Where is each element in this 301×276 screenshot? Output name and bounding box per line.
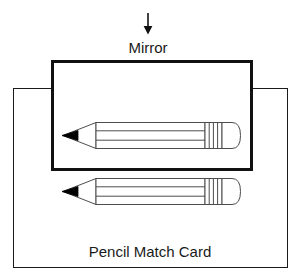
pencil-eraser <box>222 123 241 149</box>
pencil-eraser <box>222 179 241 205</box>
pencil-match-card-figure: Mirror Pencil Match Card <box>0 0 301 276</box>
mirror-box <box>53 62 252 170</box>
figure-canvas: Mirror Pencil Match Card <box>0 0 301 276</box>
mirror-label: Mirror <box>128 39 167 56</box>
pencil-below-mirror <box>62 179 241 205</box>
pencil-barrel <box>96 179 205 205</box>
mirror-pointer-arrow-icon <box>144 13 153 35</box>
page-title: Pencil Match Card <box>89 243 212 260</box>
pencil-inside-mirror <box>62 123 241 149</box>
pencil-barrel <box>96 123 205 149</box>
